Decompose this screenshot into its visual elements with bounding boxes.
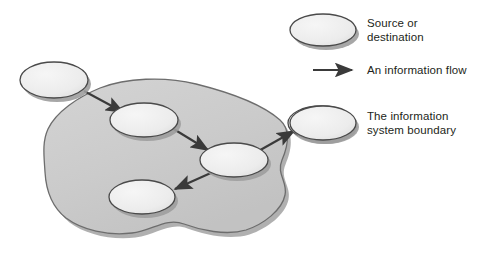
legend-symbol-source xyxy=(290,14,359,50)
legend-label-source: Source or destination xyxy=(367,16,424,44)
legend-source-body xyxy=(290,14,356,46)
legend-label-boundary: The information system boundary xyxy=(367,109,456,137)
internal-ellipse-right-body xyxy=(200,143,268,177)
legend-label-flow: An information flow xyxy=(367,63,467,77)
external-source-ellipse xyxy=(20,62,91,102)
external-source-body xyxy=(20,62,88,98)
internal-ellipse-bottom-body xyxy=(109,180,175,214)
diagram-canvas: Source or destination An information flo… xyxy=(0,0,489,253)
legend-boundary-body xyxy=(290,106,356,140)
internal-ellipse-top-body xyxy=(110,103,178,137)
